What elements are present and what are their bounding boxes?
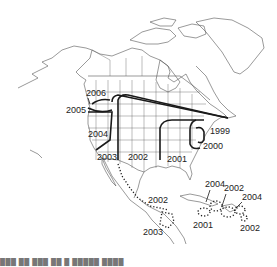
us-canada-border [88, 76, 210, 100]
line-2000 [190, 120, 200, 149]
line-2006 [92, 100, 110, 105]
year-label: 2003 [97, 153, 117, 162]
year-label: 2002 [128, 153, 148, 162]
greenland-outline [196, 18, 264, 74]
year-label: 2004 [88, 130, 108, 139]
caribbean-2001 [198, 208, 210, 216]
figure-caption: ███ ██ ███ ██ █ █████ ████ [0, 258, 277, 267]
year-label: 2004 [205, 180, 225, 189]
year-label: 2005 [66, 106, 86, 115]
year-label: 2000 [203, 142, 223, 151]
dotted-lines [118, 164, 247, 228]
alaska-outline [18, 46, 92, 88]
hispaniola-outline [222, 204, 238, 212]
year-label: 2006 [86, 89, 106, 98]
cuba-outline [180, 194, 218, 206]
year-label: 2003 [143, 228, 163, 237]
year-label: 2001 [167, 155, 187, 164]
year-label: 2002 [148, 196, 168, 205]
central-america-outline [140, 200, 186, 244]
caribbean-2002-b [241, 215, 247, 221]
year-label: 2001 [193, 221, 213, 230]
year-label: 2004 [242, 193, 262, 202]
baja-outline [102, 158, 116, 186]
caribbean-2002-a [221, 207, 235, 217]
central-america-2003 [160, 212, 174, 228]
year-label: 1999 [210, 127, 230, 136]
north-america-map [0, 0, 277, 267]
west-coast-outline [84, 84, 174, 244]
arrow-2004-cu [206, 190, 210, 202]
canada-outline [92, 48, 236, 118]
line-2005 [88, 108, 112, 112]
year-label: 2002 [240, 224, 260, 233]
arrow-2004-la [236, 202, 242, 208]
arctic-islands-outline [130, 18, 206, 44]
arrow-2002-pr [222, 194, 226, 206]
hawaii-outline [30, 150, 42, 158]
